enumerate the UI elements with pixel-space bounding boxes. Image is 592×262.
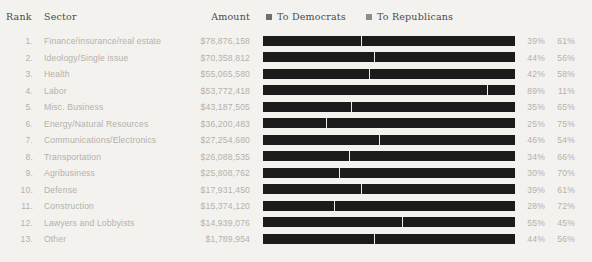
cell-sector: Construction [44, 201, 94, 211]
cell-republican-percent: 75% [551, 119, 575, 129]
cell-rank: 3. [0, 69, 33, 79]
cell-democrat-percent: 25% [521, 119, 545, 129]
table-row: 2.Ideology/Single issue$70,358,81244%56% [0, 50, 592, 67]
stacked-bar [263, 217, 515, 227]
cell-democrat-percent: 44% [521, 53, 545, 63]
cell-amount: $36,200,483 [150, 119, 250, 129]
cell-sector: Transportation [44, 152, 101, 162]
stacked-bar [263, 151, 515, 161]
legend-swatch-republicans-icon [366, 14, 372, 20]
column-header-rank: Rank [6, 11, 34, 22]
table-header: Rank Sector Amount To Democrats To Repub… [0, 11, 592, 27]
cell-democrat-percent: 55% [521, 218, 545, 228]
cell-democrat-percent: 28% [521, 201, 545, 211]
table-row: 7.Communications/Electronics$27,254,6804… [0, 132, 592, 149]
bar-split-divider [369, 69, 370, 79]
cell-republican-percent: 65% [551, 102, 575, 112]
cell-rank: 13. [0, 234, 33, 244]
stacked-bar [263, 102, 515, 112]
cell-sector: Ideology/Single issue [44, 53, 128, 63]
stacked-bar [263, 201, 515, 211]
cell-republican-percent: 70% [551, 168, 575, 178]
bar-split-divider [487, 85, 488, 95]
table-row: 3.Health$55,065,58042%58% [0, 66, 592, 83]
stacked-bar [263, 69, 515, 79]
bar-split-divider [379, 135, 380, 145]
cell-republican-percent: 56% [551, 53, 575, 63]
bar-split-divider [334, 201, 335, 211]
cell-rank: 10. [0, 185, 33, 195]
cell-sector: Lawyers and Lobbyists [44, 218, 135, 228]
cell-democrat-percent: 35% [521, 102, 545, 112]
cell-sector: Finance/insurance/real estate [44, 36, 161, 46]
cell-sector: Health [44, 69, 70, 79]
stacked-bar [263, 118, 515, 128]
cell-sector: Other [44, 234, 66, 244]
cell-amount: $78,876,158 [150, 36, 250, 46]
cell-democrat-percent: 42% [521, 69, 545, 79]
cell-republican-percent: 54% [551, 135, 575, 145]
table-body: 1.Finance/insurance/real estate$78,876,1… [0, 33, 592, 248]
legend-label-republicans: To Republicans [377, 11, 453, 22]
cell-republican-percent: 72% [551, 201, 575, 211]
cell-amount: $15,374,120 [150, 201, 250, 211]
cell-rank: 8. [0, 152, 33, 162]
bar-split-divider [361, 184, 362, 194]
column-header-sector: Sector [44, 11, 77, 22]
cell-amount: $14,939,076 [150, 218, 250, 228]
bar-split-divider [361, 36, 362, 46]
cell-republican-percent: 11% [551, 86, 575, 96]
bar-split-divider [374, 234, 375, 244]
cell-republican-percent: 56% [551, 234, 575, 244]
cell-democrat-percent: 39% [521, 185, 545, 195]
table-row: 5.Misc. Business$43,187,50535%65% [0, 99, 592, 116]
table-row: 1.Finance/insurance/real estate$78,876,1… [0, 33, 592, 50]
bar-split-divider [339, 168, 340, 178]
cell-rank: 5. [0, 102, 33, 112]
cell-democrat-percent: 89% [521, 86, 545, 96]
column-header-amount: Amount [170, 11, 250, 22]
cell-amount: $43,187,505 [150, 102, 250, 112]
cell-sector: Communications/Electronics [44, 135, 156, 145]
bar-split-divider [349, 151, 350, 161]
stacked-bar [263, 52, 515, 62]
cell-amount: $70,358,812 [150, 53, 250, 63]
cell-amount: $26,088,535 [150, 152, 250, 162]
cell-rank: 11. [0, 201, 33, 211]
legend-item-republicans: To Republicans [366, 11, 453, 22]
legend-swatch-democrats-icon [266, 14, 272, 20]
cell-sector: Defense [44, 185, 77, 195]
stacked-bar [263, 168, 515, 178]
cell-sector: Misc. Business [44, 102, 103, 112]
cell-amount: $25,808,762 [150, 168, 250, 178]
contributions-by-sector-chart: Rank Sector Amount To Democrats To Repub… [0, 0, 592, 262]
cell-republican-percent: 66% [551, 152, 575, 162]
table-row: 8.Transportation$26,088,53534%66% [0, 149, 592, 166]
table-row: 9.Agribusiness$25,808,76230%70% [0, 165, 592, 182]
cell-rank: 4. [0, 86, 33, 96]
cell-democrat-percent: 39% [521, 36, 545, 46]
bar-split-divider [326, 118, 327, 128]
stacked-bar [263, 135, 515, 145]
table-row: 6.Energy/Natural Resources$36,200,48325%… [0, 116, 592, 133]
cell-amount: $55,065,580 [150, 69, 250, 79]
cell-rank: 12. [0, 218, 33, 228]
cell-rank: 2. [0, 53, 33, 63]
cell-sector: Labor [44, 86, 67, 96]
cell-amount: $53,772,418 [150, 86, 250, 96]
table-row: 12.Lawyers and Lobbyists$14,939,07655%45… [0, 215, 592, 232]
bar-split-divider [374, 52, 375, 62]
stacked-bar [263, 36, 515, 46]
cell-rank: 9. [0, 168, 33, 178]
cell-amount: $1,789,954 [150, 234, 250, 244]
cell-sector: Agribusiness [44, 168, 95, 178]
cell-democrat-percent: 30% [521, 168, 545, 178]
cell-democrat-percent: 46% [521, 135, 545, 145]
table-row: 10.Defense$17,931,45039%61% [0, 182, 592, 199]
table-row: 4.Labor$53,772,41889%11% [0, 83, 592, 100]
cell-democrat-percent: 44% [521, 234, 545, 244]
cell-amount: $17,931,450 [150, 185, 250, 195]
bar-split-divider [351, 102, 352, 112]
legend-item-democrats: To Democrats [266, 11, 346, 22]
table-row: 13.Other$1,789,95444%56% [0, 231, 592, 248]
